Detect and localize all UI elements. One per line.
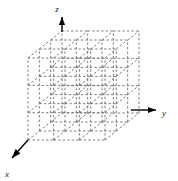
lattice-edge (28, 49, 39, 58)
lattice-edge (79, 49, 90, 58)
lattice-edge (102, 58, 113, 67)
lattice-edge (28, 104, 39, 113)
cubic-lattice (28, 31, 139, 140)
lattice-edge (128, 31, 139, 40)
lattice-edge (54, 76, 65, 85)
z-axis-arrowhead (59, 17, 65, 25)
lattice-edge (65, 122, 76, 131)
lattice-edge (116, 95, 127, 104)
lattice-figure-canvas: z y x (0, 0, 178, 181)
lattice-edge (91, 122, 102, 131)
lattice-edge (28, 131, 39, 140)
lattice-edge (76, 31, 87, 40)
lattice-edge (102, 113, 113, 122)
lattice-edge (76, 113, 87, 122)
lattice-edge (51, 58, 62, 67)
lattice-edge (76, 58, 87, 67)
axis-labels: z y x (4, 4, 166, 179)
lattice-edge (128, 86, 139, 95)
lattice-edge (105, 131, 116, 140)
lattice-edge (105, 76, 116, 85)
lattice-edge (39, 122, 50, 131)
lattice-edge (54, 131, 65, 140)
lattice-edge (54, 104, 65, 113)
lattice-edge (39, 95, 50, 104)
lattice-edge (128, 58, 139, 67)
lattice-edge (65, 95, 76, 104)
lattice-edge (102, 86, 113, 95)
lattice-edge (39, 67, 50, 76)
lattice-edge (128, 113, 139, 122)
lattice-edge (51, 113, 62, 122)
lattice-edge (39, 40, 50, 49)
lattice-edge (65, 67, 76, 76)
lattice-edge (116, 40, 127, 49)
lattice-edge (51, 86, 62, 95)
lattice-edge (91, 67, 102, 76)
lattice-edge (116, 122, 127, 131)
lattice-figure: z y x (0, 0, 178, 181)
lattice-edge (79, 131, 90, 140)
lattice-edge (116, 67, 127, 76)
lattice-edge (28, 76, 39, 85)
lattice-edge (79, 76, 90, 85)
lattice-edge (54, 49, 65, 58)
x-axis-label: x (4, 169, 9, 179)
lattice-edge (76, 86, 87, 95)
y-axis-label: y (161, 108, 166, 118)
lattice-edge (91, 95, 102, 104)
lattice-edge (51, 31, 62, 40)
lattice-edge (65, 40, 76, 49)
lattice-edge (102, 31, 113, 40)
lattice-edge (105, 49, 116, 58)
z-axis-label: z (54, 4, 59, 14)
lattice-edge (91, 40, 102, 49)
lattice-edge (105, 104, 116, 113)
y-axis-arrowhead (148, 107, 156, 113)
lattice-edge (79, 104, 90, 113)
